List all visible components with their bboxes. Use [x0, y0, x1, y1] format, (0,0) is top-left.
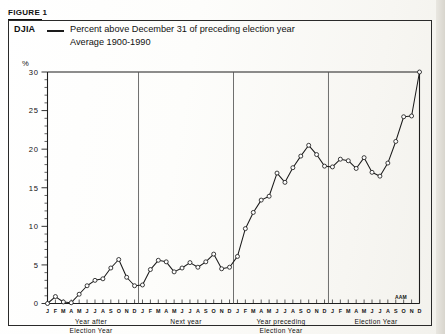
svg-text:O: O — [307, 308, 311, 314]
svg-text:J: J — [371, 308, 374, 314]
svg-text:Election Year: Election Year — [70, 327, 113, 334]
svg-text:M: M — [61, 308, 66, 314]
svg-text:Next year: Next year — [170, 318, 202, 326]
svg-text:J: J — [378, 308, 381, 314]
svg-text:M: M — [346, 308, 351, 314]
svg-text:N: N — [220, 308, 224, 314]
svg-text:A: A — [259, 308, 263, 314]
period-captions: Year afterElection YearNext yearYear pre… — [70, 318, 398, 334]
svg-text:O: O — [212, 308, 216, 314]
svg-text:10: 10 — [29, 222, 39, 231]
svg-text:Year preceding: Year preceding — [256, 318, 305, 326]
svg-text:A: A — [164, 308, 168, 314]
svg-text:A: A — [196, 308, 200, 314]
svg-text:A: A — [101, 308, 105, 314]
svg-text:F: F — [339, 308, 343, 314]
svg-text:F: F — [244, 308, 248, 314]
svg-text:J: J — [283, 308, 286, 314]
svg-text:J: J — [93, 308, 96, 314]
svg-text:S: S — [299, 308, 303, 314]
aam-annotation: AAM — [395, 294, 407, 300]
svg-text:A: A — [291, 308, 295, 314]
svg-text:J: J — [86, 308, 89, 314]
svg-text:S: S — [109, 308, 113, 314]
svg-text:D: D — [228, 308, 232, 314]
svg-text:M: M — [251, 308, 256, 314]
svg-text:Election Year: Election Year — [354, 318, 397, 325]
svg-text:A: A — [386, 308, 390, 314]
svg-text:15: 15 — [29, 184, 39, 193]
svg-text:J: J — [276, 308, 279, 314]
svg-text:J: J — [46, 308, 49, 314]
svg-text:N: N — [125, 308, 129, 314]
svg-text:A: A — [354, 308, 358, 314]
svg-text:S: S — [394, 308, 398, 314]
svg-text:Election Year: Election Year — [259, 327, 302, 334]
svg-text:F: F — [54, 308, 58, 314]
svg-text:J: J — [141, 308, 144, 314]
svg-text:5: 5 — [34, 261, 39, 270]
svg-text:25: 25 — [29, 106, 39, 115]
svg-text:30: 30 — [29, 68, 39, 77]
svg-text:J: J — [331, 308, 334, 314]
svg-text:M: M — [156, 308, 161, 314]
svg-text:Year after: Year after — [75, 318, 107, 325]
svg-text:N: N — [410, 308, 414, 314]
plot-area: %051015202530 JFMAMJJASONDJFMAMJJASONDJF… — [0, 0, 445, 334]
month-tick-labels: JFMAMJJASONDJFMAMJJASONDJFMAMJJASONDJFMA… — [46, 308, 422, 314]
svg-text:M: M — [362, 308, 367, 314]
svg-text:J: J — [188, 308, 191, 314]
svg-text:O: O — [117, 308, 121, 314]
svg-text:D: D — [323, 308, 327, 314]
svg-text:J: J — [236, 308, 239, 314]
svg-text:D: D — [133, 308, 137, 314]
svg-text:S: S — [204, 308, 208, 314]
period-dividers — [139, 72, 329, 304]
svg-text:%: % — [22, 59, 29, 68]
svg-text:N: N — [315, 308, 319, 314]
svg-text:D: D — [418, 308, 422, 314]
svg-text:F: F — [149, 308, 153, 314]
svg-text:M: M — [267, 308, 272, 314]
svg-text:20: 20 — [29, 145, 39, 154]
svg-text:M: M — [77, 308, 82, 314]
svg-text:0: 0 — [34, 299, 39, 308]
svg-text:A: A — [69, 308, 73, 314]
svg-text:M: M — [172, 308, 177, 314]
svg-text:AAM: AAM — [395, 294, 407, 300]
svg-text:O: O — [402, 308, 406, 314]
svg-text:J: J — [181, 308, 184, 314]
